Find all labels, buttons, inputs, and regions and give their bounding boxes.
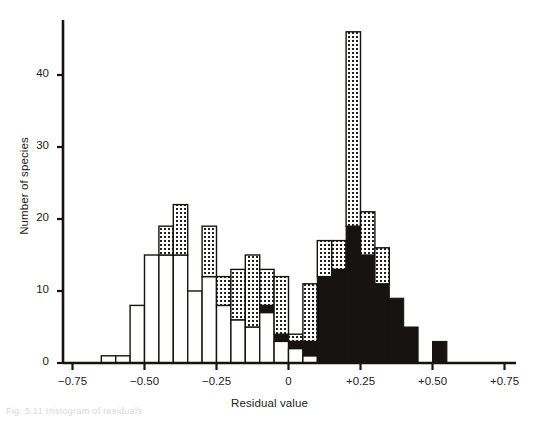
histogram-bar-black <box>389 298 403 363</box>
x-axis-tick-label: −0.25 <box>187 375 247 387</box>
y-axis-tick-label: 40 <box>19 67 49 79</box>
page-caption-ghost: Fig. 5.11 Histogram of residuals <box>6 406 142 416</box>
x-axis-tick-label: 0 <box>259 375 319 387</box>
histogram-bar-black <box>274 334 288 341</box>
histogram-bar-white <box>289 349 303 363</box>
x-axis-tick-label: −0.50 <box>115 375 175 387</box>
histogram-bar-stipple <box>231 269 245 319</box>
x-axis-tick-label: −0.75 <box>43 375 103 387</box>
histogram-bar-stipple <box>375 248 389 284</box>
histogram-bar-stipple <box>332 241 346 270</box>
y-axis-title: Number of species <box>18 106 30 266</box>
histogram-bar-stipple <box>361 212 375 255</box>
histogram-bar-stipple <box>260 269 274 305</box>
histogram-bar-black <box>404 327 418 363</box>
histogram-bar-white <box>202 277 216 363</box>
histogram-bar-black <box>260 305 274 312</box>
x-axis-tick-label: +0.75 <box>475 375 535 387</box>
histogram-bar-stipple <box>274 277 288 335</box>
histogram-bar-stipple <box>346 32 360 226</box>
histogram-bar-stipple <box>289 334 303 341</box>
bars-group <box>101 32 447 363</box>
histogram-bar-white <box>260 313 274 363</box>
histogram-bar-stipple <box>303 284 317 342</box>
histogram-bar-black <box>375 284 389 363</box>
histogram-bar-white <box>173 255 187 363</box>
x-axis-tick-label: +0.25 <box>331 375 391 387</box>
histogram-bar-black <box>303 341 317 355</box>
histogram-bar-stipple <box>317 241 331 277</box>
histogram-figure: Number of species Residual value 0102030… <box>0 0 539 426</box>
y-axis-tick-label: 20 <box>19 211 49 223</box>
histogram-bar-black <box>433 341 447 363</box>
histogram-bar-stipple <box>245 255 259 327</box>
histogram-bar-stipple <box>202 226 216 276</box>
histogram-bar-black <box>289 341 303 348</box>
histogram-bar-black <box>317 277 331 363</box>
y-axis-tick-label: 10 <box>19 283 49 295</box>
histogram-bar-black <box>361 255 375 363</box>
histogram-bar-white <box>130 305 144 363</box>
histogram-bar-black <box>332 269 346 363</box>
y-axis-tick-label: 0 <box>19 355 49 367</box>
histogram-bar-white <box>231 320 245 363</box>
histogram-bar-white <box>245 327 259 363</box>
histogram-plot <box>0 0 539 426</box>
histogram-bar-stipple <box>173 205 187 255</box>
histogram-bar-white <box>274 341 288 363</box>
histogram-bar-stipple <box>159 226 173 255</box>
histogram-bar-stipple <box>217 277 231 306</box>
histogram-bar-white <box>217 305 231 363</box>
histogram-bar-white <box>145 255 159 363</box>
histogram-bar-black <box>346 226 360 363</box>
x-axis-tick-label: +0.50 <box>403 375 463 387</box>
histogram-bar-white <box>188 291 202 363</box>
histogram-bar-white <box>159 255 173 363</box>
y-axis-tick-label: 30 <box>19 139 49 151</box>
